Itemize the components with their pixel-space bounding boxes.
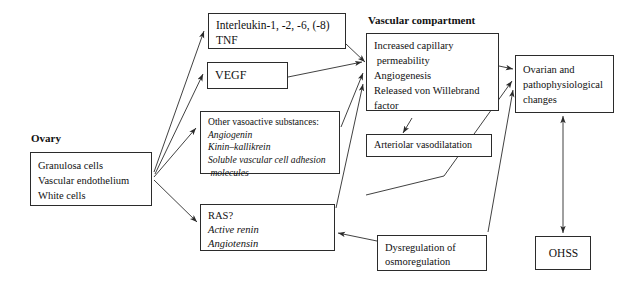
node-line: Ovarian and <box>523 63 607 78</box>
node-line: molecules <box>208 167 333 180</box>
node-ras[interactable]: RAS? Active renin Angiotensin <box>200 204 335 251</box>
edge-ras-vascular <box>336 84 363 208</box>
node-vascular-compartment[interactable]: Increased capillary permeability Angioge… <box>366 33 499 111</box>
node-line: permeability <box>374 54 492 69</box>
node-dysregulation-osmoregulation[interactable]: Dysregulation of osmoregulation <box>377 235 487 271</box>
edge-dysregulation-ras <box>338 233 377 241</box>
caption-vascular-compartment: Vascular compartment <box>368 14 475 26</box>
node-line: osmoregulation <box>385 255 480 269</box>
edge-vascular-ovarian <box>499 66 513 69</box>
node-arteriolar-vasodilatation[interactable]: Arteriolar vasodilatation <box>366 134 492 157</box>
node-line: pathophysiological <box>523 78 607 93</box>
node-line: Soluble vascular cell adhesion <box>208 154 333 167</box>
node-line: OHSS <box>543 246 584 261</box>
node-line: White cells <box>38 189 145 204</box>
node-ovarian-pathophysiological-changes[interactable]: Ovarian and pathophysiological changes <box>515 55 614 113</box>
node-line: Interleukin-1, -2, -6, (-8) <box>216 18 339 33</box>
edge-ovary-vegf <box>155 74 203 174</box>
node-line: Angiotensin <box>208 237 328 251</box>
edge-ovary-interleukin <box>154 31 204 172</box>
node-vegf[interactable]: VEGF <box>207 62 288 89</box>
node-line: Vascular endothelium <box>38 174 145 189</box>
edge-ovary-vasoactive <box>154 128 196 177</box>
node-line: Angiogenesis <box>374 69 492 84</box>
node-line: RAS? <box>208 209 328 223</box>
node-line: VEGF <box>215 68 281 83</box>
diagram-canvas: Ovary Vascular compartment Interleukin-1… <box>0 0 641 288</box>
node-ohss[interactable]: OHSS <box>535 236 591 270</box>
node-line: Kinin–kallikrein <box>208 141 333 154</box>
edge-interleukin-vascular <box>346 44 365 62</box>
node-interleukin[interactable]: Interleukin-1, -2, -6, (-8) TNF <box>208 13 346 49</box>
edge-vasoactive-vascular <box>341 73 363 127</box>
caption-ovary: Ovary <box>31 132 61 144</box>
node-other-vasoactive-substances[interactable]: Other vasoactive substances: Angiogenin … <box>200 111 340 174</box>
node-line: changes <box>523 93 607 108</box>
edge-ovary-ras <box>154 180 197 222</box>
node-ovary-cells[interactable]: Granulosa cells Vascular endothelium Whi… <box>30 152 152 206</box>
node-line: Increased capillary <box>374 39 492 54</box>
node-line: TNF <box>216 33 339 48</box>
node-line: Dysregulation of <box>385 241 480 255</box>
node-line: Granulosa cells <box>38 159 145 174</box>
node-line: Arteriolar vasodilatation <box>374 139 485 152</box>
node-line: Released von Willebrand <box>374 84 492 99</box>
edge-vegf-vascular <box>288 62 362 77</box>
edge-vascular-arteriolar <box>403 118 412 133</box>
node-line: Angiogenin <box>208 129 333 142</box>
node-line: Active renin <box>208 223 328 237</box>
node-line: factor <box>374 99 492 114</box>
node-line: Other vasoactive substances: <box>208 116 333 129</box>
